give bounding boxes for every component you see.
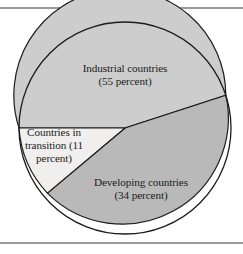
slice-label-developing-name: Developing countries	[78, 176, 204, 189]
slice-label-transition-line2: transition (11	[8, 139, 100, 152]
slice-label-transition-line1: Countries in	[8, 126, 100, 139]
slice-label-industrial-value: (55 percent)	[55, 75, 195, 88]
pie-chart-figure: Industrial countries (55 percent) Countr…	[0, 0, 243, 254]
slice-label-industrial-countries: Industrial countries (55 percent)	[55, 62, 195, 88]
slice-label-industrial-name: Industrial countries	[55, 62, 195, 75]
slice-label-transition-line3: percent)	[8, 152, 100, 165]
slice-label-countries-in-transition: Countries in transition (11 percent)	[8, 126, 100, 165]
slice-label-developing-value: (34 percent)	[78, 189, 204, 202]
slice-label-developing-countries: Developing countries (34 percent)	[78, 176, 204, 202]
